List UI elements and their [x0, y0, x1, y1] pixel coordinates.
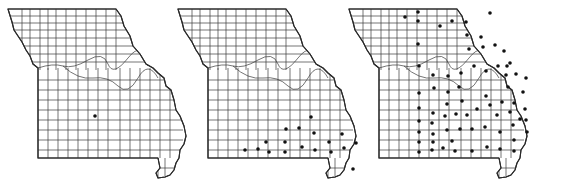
occurrence-dot	[488, 103, 492, 107]
occurrence-dot	[417, 119, 421, 123]
occurrence-dot	[498, 147, 502, 151]
occurrence-dot	[283, 140, 287, 144]
occurrence-dot	[443, 114, 447, 118]
occurrence-dot	[284, 127, 288, 131]
state-outline	[349, 9, 527, 178]
occurrence-dot	[512, 149, 516, 153]
occurrence-dot	[465, 113, 469, 117]
occurrence-dot	[457, 85, 461, 89]
missouri-county-map-svg	[0, 0, 190, 184]
occurrence-dot	[453, 149, 457, 153]
occurrence-dot	[483, 125, 487, 129]
occurrence-dot	[417, 91, 421, 95]
missouri-county-map-svg	[170, 0, 360, 184]
occurrence-dot	[441, 146, 445, 150]
occurrence-dot	[267, 150, 271, 154]
occurrence-dot	[309, 115, 313, 119]
occurrence-dot	[488, 11, 492, 15]
occurrence-dot	[313, 148, 317, 152]
occurrence-dot	[512, 101, 516, 105]
occurrence-dot	[484, 69, 488, 73]
occurrence-dot	[329, 150, 333, 154]
occurrence-dot	[417, 150, 421, 154]
occurrence-dot	[327, 140, 331, 144]
occurrence-dot	[312, 131, 316, 135]
occurrence-dot	[446, 74, 450, 78]
occurrence-dot	[512, 138, 516, 142]
occurrence-dot	[431, 132, 435, 136]
occurrence-dot	[496, 64, 500, 68]
occurrence-dot	[430, 121, 434, 125]
occurrence-dot	[458, 127, 462, 131]
missouri-county-map-svg	[341, 0, 531, 184]
occurrence-dot	[511, 123, 515, 127]
occurrence-dot	[431, 111, 435, 115]
occurrence-dot	[438, 24, 442, 28]
occurrence-dot	[431, 140, 435, 144]
occurrence-dot	[432, 86, 436, 90]
occurrence-dot	[523, 107, 527, 111]
occurrence-dot	[464, 20, 468, 24]
occurrence-dot	[521, 90, 525, 94]
occurrence-dot	[479, 35, 483, 39]
occurrence-dot	[498, 130, 502, 134]
occurrence-dot	[484, 94, 488, 98]
state-outline	[178, 9, 356, 178]
occurrence-dot	[416, 10, 420, 14]
state-outline	[8, 9, 186, 178]
occurrence-dot	[430, 148, 434, 152]
occurrence-dot	[470, 149, 474, 153]
occurrence-dot	[445, 128, 449, 132]
occurrence-dot	[431, 73, 435, 77]
occurrence-dot	[506, 85, 510, 89]
occurrence-dot	[297, 126, 301, 130]
occurrence-dot	[485, 145, 489, 149]
occurrence-dot	[508, 110, 512, 114]
occurrence-dot	[417, 130, 421, 134]
occurrence-dot	[504, 73, 508, 77]
occurrence-dot	[243, 148, 247, 152]
occurrence-dot	[417, 140, 421, 144]
occurrence-dot	[417, 106, 421, 110]
occurrence-dot	[514, 72, 518, 76]
occurrence-dot	[460, 99, 464, 103]
occurrence-dot	[416, 42, 420, 46]
occurrence-dot	[459, 71, 463, 75]
occurrence-dot	[450, 139, 454, 143]
occurrence-dot	[481, 45, 485, 49]
occurrence-dot	[493, 43, 497, 47]
occurrence-dot	[445, 102, 449, 106]
occurrence-dot	[264, 140, 268, 144]
occurrence-dot	[454, 112, 458, 116]
occurrence-dot	[256, 147, 260, 151]
county-map-3	[341, 0, 531, 184]
occurrence-dot	[403, 15, 407, 19]
occurrence-dot	[465, 33, 469, 37]
occurrence-dot	[524, 76, 528, 80]
occurrence-dot	[475, 107, 479, 111]
occurrence-dot	[417, 64, 421, 68]
occurrence-dot	[450, 19, 454, 23]
occurrence-dot	[283, 150, 287, 154]
occurrence-dot	[508, 61, 512, 65]
occurrence-dot	[300, 145, 304, 149]
occurrence-dot	[500, 100, 504, 104]
occurrence-dot	[525, 130, 529, 134]
occurrence-dot	[524, 118, 528, 122]
occurrence-dot	[467, 47, 471, 51]
county-map-1	[0, 0, 190, 184]
occurrence-dot	[93, 114, 97, 118]
occurrence-dot	[472, 64, 476, 68]
occurrence-dot	[416, 19, 420, 23]
county-map-2	[170, 0, 360, 184]
occurrence-dot	[470, 127, 474, 131]
occurrence-dot	[505, 64, 509, 68]
occurrence-dot	[502, 49, 506, 53]
occurrence-dot	[446, 90, 450, 94]
occurrence-dot	[518, 117, 522, 121]
occurrence-dot	[495, 113, 499, 117]
